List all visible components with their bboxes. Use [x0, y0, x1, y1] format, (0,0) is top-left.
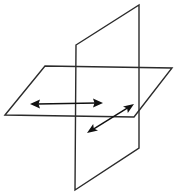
geometry-diagram [0, 0, 176, 195]
horizontal-arrow-shaft [37, 103, 97, 104]
diagonal-double-arrow [87, 104, 134, 133]
horizontal-plane [5, 66, 172, 117]
diagonal-arrow-shaft [93, 108, 128, 130]
horizontal-double-arrow [30, 99, 103, 109]
diagonal-arrow-head-lower-left [87, 124, 98, 133]
horizontal-arrow-head-left [30, 100, 40, 109]
horizontal-arrow-head-right [93, 99, 103, 108]
diagonal-arrow-head-upper-right [123, 104, 134, 113]
figure-container [0, 0, 176, 195]
vertical-plane [75, 5, 139, 190]
